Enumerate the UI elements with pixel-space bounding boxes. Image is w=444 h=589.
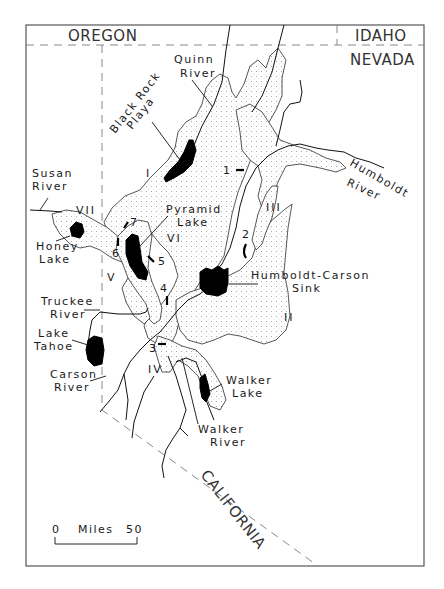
label-subbasin-IV: IV <box>148 363 163 376</box>
label-carson-river: River <box>54 381 90 394</box>
label-subbasin-I: I <box>146 167 151 180</box>
label-subbasin-II: II <box>284 311 295 324</box>
scale-end: 50 <box>126 523 143 536</box>
scale-bar: 0 Miles 50 <box>52 523 143 544</box>
scale-start: 0 <box>52 523 61 536</box>
label-subbasin-VI: VI <box>167 232 182 245</box>
label-truckee-river: River <box>50 308 86 321</box>
label-pyramid: Pyramid <box>166 203 222 216</box>
label-honey-lake: Lake <box>39 253 71 266</box>
label-sill-2: 2 <box>242 228 249 241</box>
label-susan: Susan <box>32 167 73 180</box>
basin-IV <box>154 336 226 410</box>
label-humboldt-carson: Humboldt-Carson <box>251 269 370 282</box>
scale-bar-line <box>55 537 137 544</box>
label-sill-3: 3 <box>149 342 156 355</box>
label-walker: Walker <box>226 374 272 387</box>
black-rock-playa-leader <box>152 122 180 160</box>
walker-river-branch-2 <box>180 428 188 436</box>
basin-east-lobe <box>236 104 346 214</box>
label-subbasin-III: III <box>266 201 282 214</box>
label-carson: Carson <box>50 368 97 381</box>
label-susan-river: River <box>32 180 68 193</box>
sill-2-mark <box>244 244 246 258</box>
scale-unit: Miles <box>78 523 114 536</box>
label-honey: Honey <box>36 240 79 253</box>
label-sink: Sink <box>292 282 321 295</box>
label-lake: Lake <box>38 327 70 340</box>
label-sill-4: 4 <box>160 282 167 295</box>
humboldt-tributary-2 <box>300 80 302 102</box>
label-walker-river: River <box>210 436 246 449</box>
label-idaho: IDAHO <box>355 27 407 45</box>
label-nevada: NEVADA <box>350 51 415 69</box>
carson-river-branch <box>124 374 128 420</box>
label-sill-1: 1 <box>223 164 230 177</box>
humboldt-carson-sink-shape <box>200 266 228 296</box>
label-sill-6: 6 <box>112 247 119 260</box>
label-walker-2: Walker <box>198 423 244 436</box>
label-sill-7: 7 <box>130 216 137 229</box>
label-subbasin-V: V <box>107 271 117 284</box>
susan-river-leader <box>40 198 48 210</box>
lake-tahoe-shape <box>86 336 104 366</box>
susan-river-line <box>30 210 62 212</box>
lake-tahoe-leader <box>72 340 88 345</box>
label-quinn: Quinn <box>174 53 214 66</box>
walker-river-line <box>162 356 186 478</box>
label-tahoe: Tahoe <box>33 340 74 353</box>
lake-lahontan-map: OREGON IDAHO NEVADA CALIFORNIA Quinn Riv… <box>0 0 444 589</box>
label-oregon: OREGON <box>68 27 137 45</box>
label-walker-lake: Lake <box>232 387 264 400</box>
walker-river-branch <box>132 376 154 438</box>
label-quinn-river: River <box>180 67 216 80</box>
label-subbasin-VII: VII <box>76 204 96 217</box>
label-california: CALIFORNIA <box>197 466 270 552</box>
label-truckee: Truckee <box>40 295 94 308</box>
label-pyramid-lake: Lake <box>177 216 209 229</box>
label-sill-5: 5 <box>158 255 165 268</box>
